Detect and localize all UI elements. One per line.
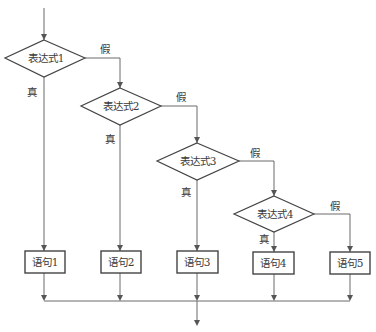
decision-1-label: 表达式1 [28,52,65,64]
if-else-if-flowchart: 表达式1 表达式2 表达式3 表达式4 语句1 语句2 语句3 语句4 语句5 … [0,0,376,332]
decision-3-label: 表达式3 [180,155,217,167]
d3-true-label: 真 [181,186,191,198]
statement-1-label: 语句1 [32,256,59,268]
statement-4-label: 语句4 [260,257,287,269]
d3-false-label: 假 [250,147,261,159]
d2-true-label: 真 [105,133,115,145]
statement-5-label: 语句5 [337,257,364,269]
d4-true-label: 真 [259,233,269,245]
d2-false-edge [161,106,197,143]
d3-false-edge [239,161,274,196]
decision-4-label: 表达式4 [257,208,294,220]
d4-false-edge [314,214,350,252]
decision-2-label: 表达式2 [103,100,140,112]
d1-true-label: 真 [27,86,37,98]
d1-false-edge [85,58,120,88]
d2-false-label: 假 [176,91,187,103]
d1-false-label: 假 [100,43,111,55]
statement-2-label: 语句2 [108,256,135,268]
d4-false-label: 假 [330,200,341,212]
statement-3-label: 语句3 [184,256,211,268]
